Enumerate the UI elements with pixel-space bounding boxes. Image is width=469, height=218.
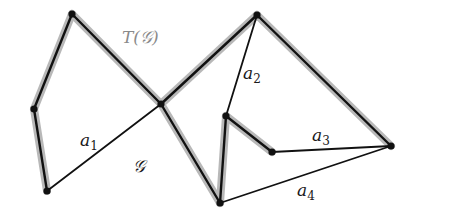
vertex-A (68, 10, 75, 17)
svg-text:a4: a4 (297, 180, 315, 203)
vertex-G (216, 199, 223, 206)
vertex-I (387, 142, 394, 149)
edge-label-a2: a2 (243, 63, 261, 86)
edge-label-a4: a4 (297, 180, 315, 203)
tree-edge-BC (34, 109, 47, 191)
vertex-H (268, 148, 275, 155)
graph-vertices (30, 10, 394, 206)
tree-label: T(𝒢) (122, 27, 159, 47)
vertex-D (157, 100, 164, 107)
graph-diagram: T(𝒢) 𝒢 a1 a2 a3 a4 (0, 0, 469, 218)
vertex-B (30, 105, 37, 112)
edge-label-a3: a3 (312, 125, 330, 148)
vertex-F (222, 112, 229, 119)
graph-label: 𝒢 (133, 156, 148, 176)
svg-text:a2: a2 (243, 63, 261, 86)
svg-text:a3: a3 (312, 125, 330, 148)
vertex-C (43, 187, 50, 194)
tree-edge-AB (34, 14, 72, 109)
edge-a1 (47, 104, 161, 191)
spanning-tree-highlight (34, 14, 391, 203)
tree-edge-FH (226, 116, 272, 152)
edge-label-a1: a1 (80, 130, 98, 153)
vertex-E (253, 11, 260, 18)
svg-text:a1: a1 (80, 130, 98, 153)
tree-edge-DG (161, 104, 220, 203)
graph-edges (34, 14, 391, 203)
tree-edge-EI (257, 15, 391, 146)
